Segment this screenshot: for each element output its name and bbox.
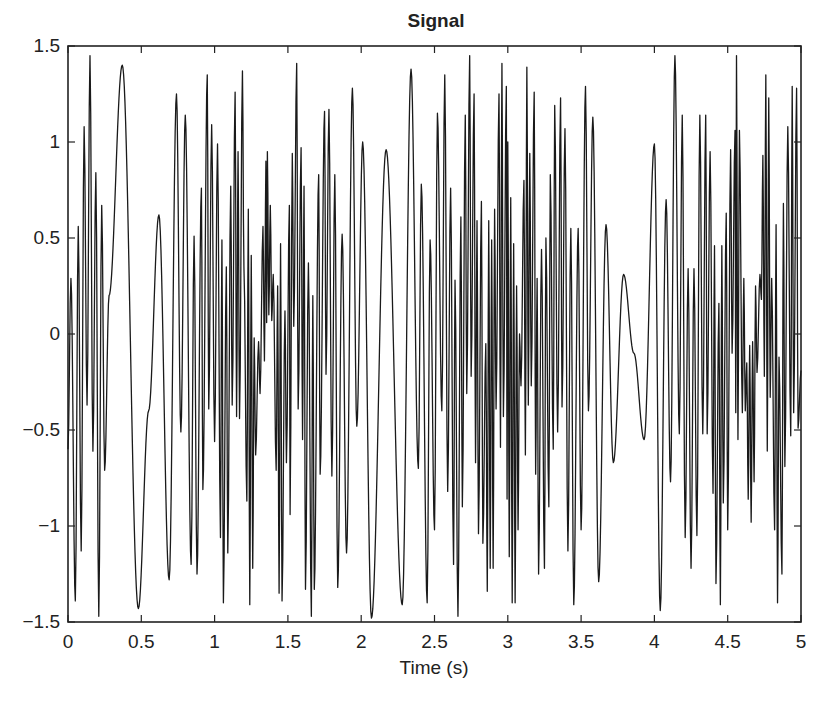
x-tick-label: 4.5 bbox=[714, 631, 740, 652]
y-tick-label: 0 bbox=[49, 323, 60, 344]
x-tick-label: 1 bbox=[209, 631, 220, 652]
signal-chart: Signal 00.511.522.533.544.55 1.510.50−0.… bbox=[0, 0, 823, 703]
x-tick-label: 3.5 bbox=[568, 631, 594, 652]
y-tick-label: 1 bbox=[49, 131, 60, 152]
x-tick-label: 4 bbox=[649, 631, 660, 652]
y-tick-label: 1.5 bbox=[34, 35, 60, 56]
x-axis-label: Time (s) bbox=[400, 657, 469, 678]
y-tick-label: −1.5 bbox=[22, 611, 60, 632]
x-tick-label: 2 bbox=[356, 631, 367, 652]
x-tick-label: 1.5 bbox=[275, 631, 301, 652]
y-tick-label: −0.5 bbox=[22, 419, 60, 440]
x-tick-label: 3 bbox=[503, 631, 514, 652]
x-tick-label: 5 bbox=[796, 631, 807, 652]
y-tick-label: 0.5 bbox=[34, 227, 60, 248]
chart-title: Signal bbox=[407, 10, 464, 31]
x-tick-label: 2.5 bbox=[421, 631, 447, 652]
x-tick-label: 0 bbox=[63, 631, 74, 652]
x-tick-label: 0.5 bbox=[128, 631, 154, 652]
y-tick-label: −1 bbox=[38, 515, 60, 536]
plot-area: 00.511.522.533.544.55 1.510.50−0.5−1−1.5 bbox=[22, 35, 806, 652]
